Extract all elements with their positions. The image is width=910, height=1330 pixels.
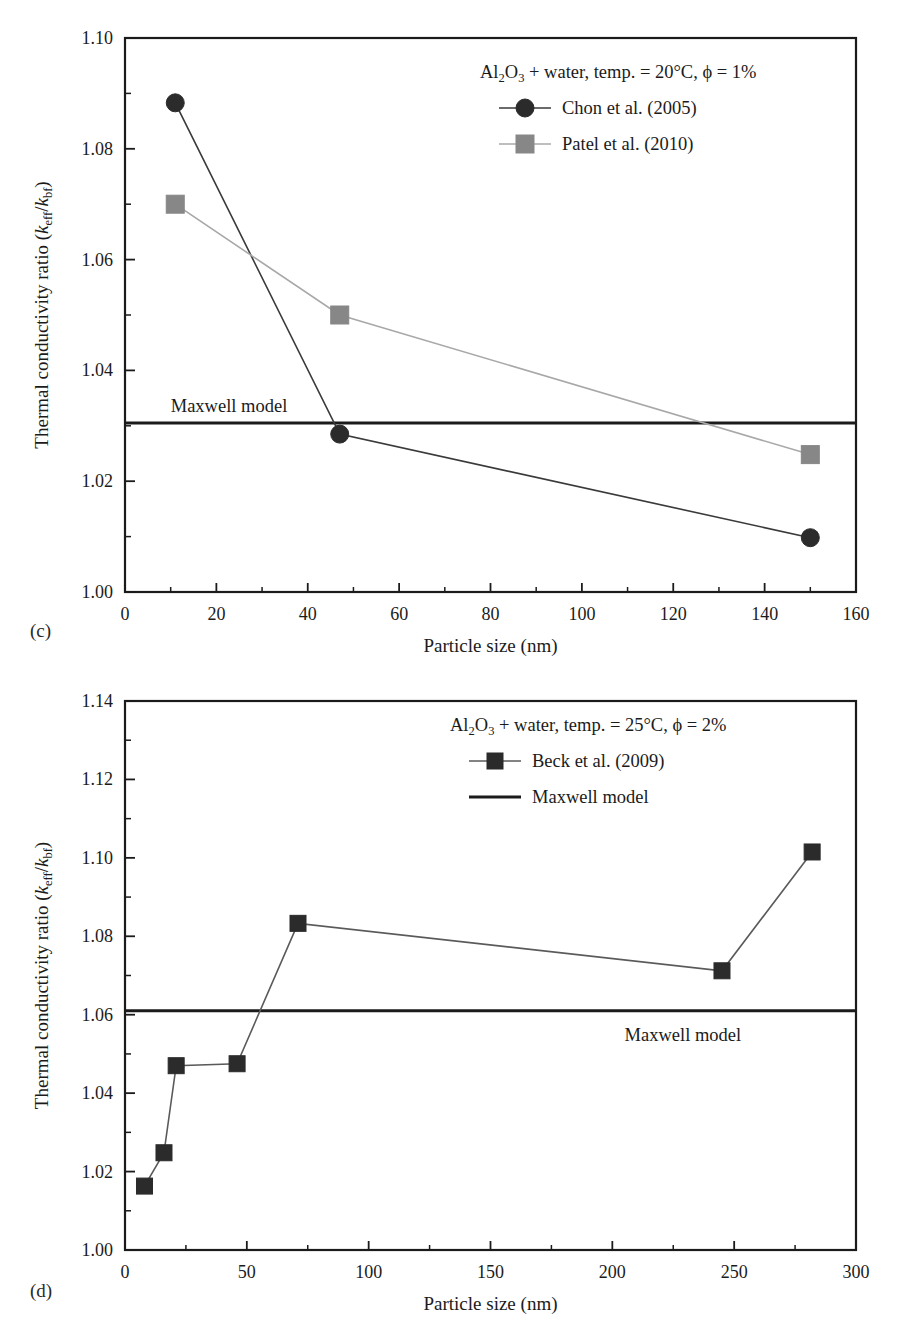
y-tick-label: 1.12 — [82, 769, 114, 789]
x-tick-label: 120 — [660, 604, 687, 624]
x-tick-label: 40 — [299, 604, 317, 624]
chart-c: 0204060801001201401601.001.021.041.061.0… — [0, 0, 910, 665]
legend-entry-label: Patel et al. (2010) — [562, 134, 694, 155]
panel-d: 0501001502002503001.001.021.041.061.081.… — [0, 665, 910, 1330]
legend-entry-label: Chon et al. (2005) — [562, 98, 697, 119]
data-point-marker — [229, 1056, 245, 1072]
y-tick-label: 1.14 — [82, 691, 114, 711]
data-point-marker — [136, 1178, 152, 1194]
x-tick-label: 100 — [568, 604, 595, 624]
x-tick-label: 100 — [355, 1262, 382, 1282]
y-tick-label: 1.04 — [82, 360, 114, 380]
x-axis-title: Particle size (nm) — [423, 1293, 557, 1315]
x-tick-label: 150 — [477, 1262, 504, 1282]
x-tick-label: 160 — [843, 604, 870, 624]
y-tick-label: 1.08 — [82, 926, 114, 946]
y-tick-label: 1.02 — [82, 1162, 114, 1182]
x-tick-label: 200 — [599, 1262, 626, 1282]
y-tick-label: 1.00 — [82, 1240, 114, 1260]
x-axis-title: Particle size (nm) — [423, 635, 557, 657]
x-tick-label: 250 — [721, 1262, 748, 1282]
data-point-marker — [156, 1145, 172, 1161]
y-axis-title-text: Thermal conductivity ratio (keff/kbf) — [31, 181, 55, 448]
maxwell-model-label: Maxwell model — [171, 396, 288, 416]
panel-c: 0204060801001201401601.001.021.041.061.0… — [0, 0, 910, 665]
legend-marker-1 — [516, 135, 534, 153]
y-axis-title: Thermal conductivity ratio (keff/kbf) — [31, 181, 55, 448]
maxwell-model-label: Maxwell model — [625, 1025, 742, 1045]
y-axis-title-text: Thermal conductivity ratio (keff/kbf) — [31, 842, 55, 1109]
legend-condition-text: Al2O3 + water, temp. = 25°C, ϕ = 2% — [450, 715, 727, 738]
y-tick-label: 1.00 — [82, 582, 114, 602]
y-tick-label: 1.06 — [82, 250, 114, 270]
chart-d: 0501001502002503001.001.021.041.061.081.… — [0, 665, 910, 1330]
data-point-marker — [166, 94, 184, 112]
data-point-marker — [166, 195, 184, 213]
x-tick-label: 60 — [390, 604, 408, 624]
series-line-1 — [175, 204, 810, 454]
data-point-marker — [290, 915, 306, 931]
x-tick-label: 50 — [238, 1262, 256, 1282]
data-point-marker — [331, 425, 349, 443]
data-point-marker — [804, 844, 820, 860]
y-axis-title: Thermal conductivity ratio (keff/kbf) — [31, 842, 55, 1109]
legend-condition-text: Al2O3 + water, temp. = 20°C, ϕ = 1% — [480, 62, 757, 85]
x-tick-label: 140 — [751, 604, 778, 624]
y-tick-label: 1.10 — [82, 28, 114, 48]
series-line-0 — [144, 852, 812, 1186]
x-tick-label: 80 — [482, 604, 500, 624]
plot-frame — [125, 38, 856, 592]
data-point-marker — [801, 446, 819, 464]
data-point-marker — [714, 963, 730, 979]
legend-marker-0 — [516, 99, 534, 117]
legend-marker-0 — [487, 753, 503, 769]
data-point-marker — [168, 1058, 184, 1074]
panel-c-label: (c) — [30, 620, 51, 642]
data-point-marker — [801, 529, 819, 547]
x-tick-label: 0 — [121, 604, 130, 624]
x-tick-label: 20 — [207, 604, 225, 624]
plot-frame — [125, 701, 856, 1250]
data-point-marker — [331, 306, 349, 324]
x-tick-label: 300 — [843, 1262, 870, 1282]
x-tick-label: 0 — [121, 1262, 130, 1282]
y-tick-label: 1.10 — [82, 848, 114, 868]
panel-d-label: (d) — [30, 1280, 52, 1302]
y-tick-label: 1.08 — [82, 139, 114, 159]
legend-entry-label: Maxwell model — [532, 787, 649, 807]
y-tick-label: 1.06 — [82, 1005, 114, 1025]
y-tick-label: 1.02 — [82, 471, 114, 491]
y-tick-label: 1.04 — [82, 1083, 114, 1103]
series-line-0 — [175, 103, 810, 538]
legend-entry-label: Beck et al. (2009) — [532, 751, 665, 772]
